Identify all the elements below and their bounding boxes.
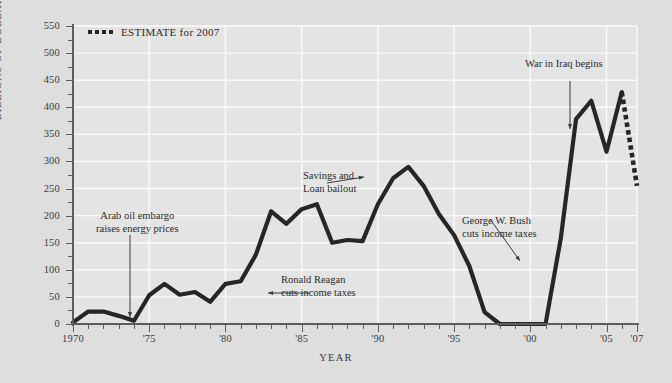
- y-axis-tick: [66, 80, 73, 81]
- x-axis-minor-tick: [500, 325, 501, 329]
- x-axis-minor-tick: [591, 325, 592, 329]
- annotation-arab-oil-embargo: Arab oil embargo raises energy prices: [96, 210, 179, 235]
- y-axis-title: BILLIONS OF DOLLARS: [0, 0, 3, 120]
- x-axis-minor-tick: [286, 325, 287, 329]
- y-axis-tick: [66, 270, 73, 271]
- y-axis-minor-tick: [68, 121, 73, 122]
- x-axis-minor-tick: [271, 325, 272, 329]
- y-axis-tick: [66, 134, 73, 135]
- y-axis-tick: [66, 53, 73, 54]
- annotation-line-1: Ronald Reagan: [281, 274, 356, 287]
- chart-page: 050100150200250300350400450500550 1970'7…: [0, 0, 672, 383]
- y-axis-tick-label: 500: [30, 48, 60, 58]
- y-axis-minor-tick: [68, 310, 73, 311]
- annotation-line-2: cuts income taxes: [281, 287, 356, 300]
- x-axis-minor-tick: [576, 325, 577, 329]
- y-axis-tick: [66, 26, 73, 27]
- y-axis-minor-tick: [68, 40, 73, 41]
- x-axis-minor-tick: [195, 325, 196, 329]
- x-axis-tick: [637, 325, 638, 332]
- x-axis-minor-tick: [119, 325, 120, 329]
- annotation-line-2: cuts income taxes: [462, 228, 537, 241]
- annotation-line-1: George W. Bush: [462, 215, 537, 228]
- x-axis-tick: [454, 325, 455, 332]
- x-axis-minor-tick: [485, 325, 486, 329]
- x-axis-minor-tick: [469, 325, 470, 329]
- x-axis-tick: [378, 325, 379, 332]
- x-axis-minor-tick: [317, 325, 318, 329]
- y-axis-tick-label: 50: [30, 292, 60, 302]
- x-axis-line: [72, 323, 639, 325]
- x-axis-minor-tick: [210, 325, 211, 329]
- y-axis-tick-label: 0: [30, 319, 60, 329]
- legend-label: ESTIMATE for 2007: [121, 26, 220, 38]
- x-axis-tick: [530, 325, 531, 332]
- x-axis-tick: [149, 325, 150, 332]
- x-axis-minor-tick: [332, 325, 333, 329]
- y-axis-minor-tick: [68, 283, 73, 284]
- x-axis-minor-tick: [88, 325, 89, 329]
- y-axis-minor-tick: [68, 94, 73, 95]
- x-axis-title: YEAR: [0, 352, 672, 363]
- y-axis-tick: [66, 243, 73, 244]
- x-axis-tick: [73, 325, 74, 332]
- x-axis-tick-label: '90: [358, 334, 398, 344]
- y-axis-tick-label: 550: [30, 21, 60, 31]
- x-axis-minor-tick: [241, 325, 242, 329]
- x-axis-minor-tick: [408, 325, 409, 329]
- x-axis-minor-tick: [363, 325, 364, 329]
- y-axis-minor-tick: [68, 256, 73, 257]
- x-axis-tick: [225, 325, 226, 332]
- x-axis-minor-tick: [622, 325, 623, 329]
- x-axis-minor-tick: [515, 325, 516, 329]
- y-axis-tick: [66, 107, 73, 108]
- x-axis-minor-tick: [134, 325, 135, 329]
- annotation-line-1: Arab oil embargo: [96, 210, 179, 223]
- y-axis-minor-tick: [68, 67, 73, 68]
- x-axis-minor-tick: [546, 325, 547, 329]
- legend-dotted-swatch: [88, 30, 115, 34]
- annotation-george-w-bush: George W. Bush cuts income taxes: [462, 215, 537, 240]
- x-axis-tick-label: '95: [434, 334, 474, 344]
- x-axis-tick: [302, 325, 303, 332]
- x-axis-minor-tick: [393, 325, 394, 329]
- x-axis-tick-label: '80: [205, 334, 245, 344]
- y-axis-tick-label: 400: [30, 102, 60, 112]
- y-axis-tick: [66, 324, 73, 325]
- x-axis-minor-tick: [103, 325, 104, 329]
- x-axis-tick-label: '85: [282, 334, 322, 344]
- annotation-war-in-iraq-begins: War in Iraq begins: [525, 58, 603, 71]
- y-axis-minor-tick: [68, 202, 73, 203]
- annotation-line-2: Loan bailout: [303, 183, 356, 196]
- y-axis-tick-label: 100: [30, 265, 60, 275]
- y-axis-minor-tick: [68, 148, 73, 149]
- y-axis-minor-tick: [68, 175, 73, 176]
- x-axis-minor-tick: [180, 325, 181, 329]
- y-axis-tick: [66, 297, 73, 298]
- y-axis-tick: [66, 189, 73, 190]
- annotation-savings-and-loan-bailout: Savings and Loan bailout: [303, 170, 356, 195]
- y-axis-tick-label: 350: [30, 129, 60, 139]
- y-axis-tick-label: 250: [30, 184, 60, 194]
- annotation-ronald-reagan: Ronald Reagan cuts income taxes: [281, 274, 356, 299]
- x-axis-tick: [607, 325, 608, 332]
- x-axis-tick-label: 1970: [53, 334, 93, 344]
- x-axis-minor-tick: [256, 325, 257, 329]
- x-axis-minor-tick: [347, 325, 348, 329]
- legend: ESTIMATE for 2007: [88, 26, 220, 38]
- y-axis-tick-label: 300: [30, 156, 60, 166]
- x-axis-minor-tick: [424, 325, 425, 329]
- y-axis-tick-label: 150: [30, 238, 60, 248]
- x-axis-tick-label: '07: [617, 334, 657, 344]
- y-axis-tick-label: 450: [30, 75, 60, 85]
- x-axis-minor-tick: [561, 325, 562, 329]
- y-axis-minor-tick: [68, 229, 73, 230]
- x-axis-minor-tick: [164, 325, 165, 329]
- annotation-line-1: War in Iraq begins: [525, 58, 603, 71]
- y-axis-tick: [66, 216, 73, 217]
- x-axis-tick-label: '00: [510, 334, 550, 344]
- y-axis-tick-label: 200: [30, 211, 60, 221]
- x-axis-tick-label: '75: [129, 334, 169, 344]
- annotation-line-1: Savings and: [303, 170, 356, 183]
- x-axis-minor-tick: [439, 325, 440, 329]
